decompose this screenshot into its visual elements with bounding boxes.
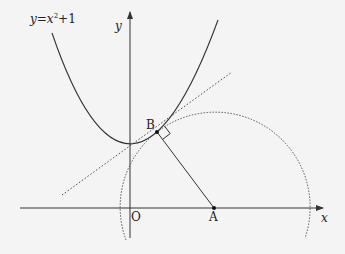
- tangent-line: [62, 72, 232, 195]
- diagram: y=x2+1 y x O A B: [0, 0, 345, 254]
- parabola: [52, 20, 218, 144]
- curve-label-eq: =: [37, 12, 47, 26]
- curve-label-lhs: y: [30, 12, 37, 26]
- curve-label: y=x2+1: [30, 13, 76, 25]
- curve-label-tail: +1: [58, 12, 76, 26]
- point-b: [155, 130, 159, 134]
- y-axis-label: y: [115, 20, 122, 32]
- point-a-label: A: [209, 211, 218, 223]
- segment-ab: [157, 132, 214, 208]
- curve-label-var: x: [47, 12, 54, 26]
- point-b-label: B: [146, 119, 155, 131]
- origin-label: O: [131, 211, 141, 223]
- x-axis-label: x: [321, 212, 328, 224]
- right-angle-mark: [163, 126, 171, 139]
- diagram-canvas: [0, 0, 345, 254]
